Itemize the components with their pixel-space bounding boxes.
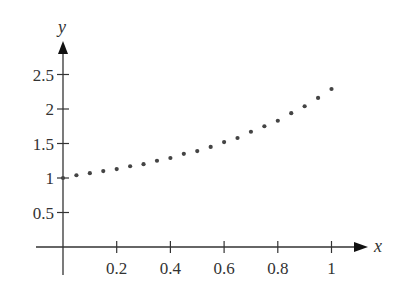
data-point: [195, 149, 199, 153]
data-point: [235, 136, 239, 140]
data-point: [249, 130, 253, 134]
y-tick-label: 2: [46, 100, 55, 119]
data-point: [209, 145, 213, 149]
data-point: [61, 176, 65, 180]
data-point: [155, 159, 159, 163]
chart: 0.20.40.60.810.511.522.5 xy: [0, 0, 404, 304]
data-point: [101, 169, 105, 173]
y-tick-label: 1: [46, 169, 55, 188]
data-point: [262, 124, 266, 128]
data-point: [128, 164, 132, 168]
y-axis-label: y: [56, 17, 66, 37]
x-tick-label: 0.8: [267, 259, 288, 278]
data-point: [168, 156, 172, 160]
x-axis-arrow-icon: [354, 242, 368, 252]
data-point: [115, 167, 119, 171]
axis-labels: xy: [56, 17, 382, 256]
y-tick-label: 0.5: [33, 204, 54, 223]
x-tick-label: 1: [327, 259, 336, 278]
data-point: [182, 152, 186, 156]
x-axis-label: x: [373, 236, 382, 256]
data-point: [141, 162, 145, 166]
data-point: [74, 173, 78, 177]
data-point: [222, 140, 226, 144]
axes: [36, 41, 368, 275]
x-tick-label: 0.6: [213, 259, 234, 278]
data-point: [303, 104, 307, 108]
data-point: [88, 171, 92, 175]
data-point: [329, 87, 333, 91]
data-point: [289, 111, 293, 115]
ticks: 0.20.40.60.810.511.522.5: [33, 66, 336, 279]
y-axis-arrow-icon: [58, 41, 68, 54]
data-point: [316, 96, 320, 100]
y-tick-label: 1.5: [33, 135, 54, 154]
x-tick-label: 0.2: [106, 259, 127, 278]
data-point: [276, 119, 280, 123]
data-points: [61, 87, 334, 180]
x-tick-label: 0.4: [160, 259, 182, 278]
y-tick-label: 2.5: [33, 66, 54, 85]
